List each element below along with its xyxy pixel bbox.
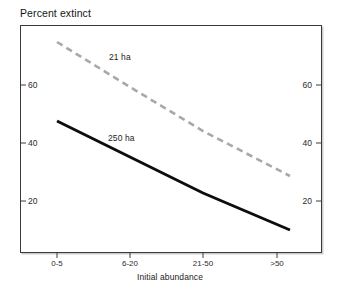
y-tick-label-right-40: 40 — [290, 138, 312, 148]
x-tick-label-over-50: >50 — [247, 259, 307, 268]
series-line-21ha — [57, 42, 290, 176]
series-annotation-250ha: 250 ha — [108, 133, 135, 143]
chart-figure: Percent extinct 60 40 20 60 40 20 — [0, 0, 340, 293]
x-tick-label-21-50: 21-50 — [173, 259, 233, 268]
y-tick-label-right-60: 60 — [290, 80, 312, 90]
x-axis-ticks — [57, 253, 277, 258]
y-axis-left-ticks — [20, 85, 26, 201]
x-tick-label-0-5: 0-5 — [27, 259, 87, 268]
y-tick-label-left-60: 60 — [28, 80, 37, 90]
x-axis-title: Initial abundance — [0, 272, 340, 282]
y-tick-label-left-20: 20 — [28, 196, 37, 206]
x-tick-label-6-20: 6-20 — [100, 259, 160, 268]
series-line-250ha — [57, 121, 290, 230]
y-axis-right-ticks — [316, 85, 322, 201]
y-tick-label-left-40: 40 — [28, 138, 37, 148]
series-annotation-21ha: 21 ha — [109, 52, 131, 62]
plot-area — [0, 0, 340, 293]
y-tick-label-right-20: 20 — [290, 196, 312, 206]
